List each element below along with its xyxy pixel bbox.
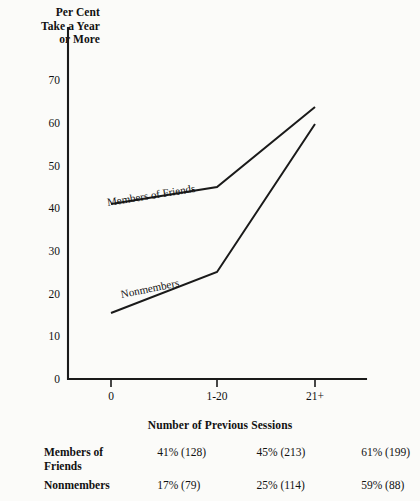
table-cell: 45% (213) — [254, 446, 351, 473]
table-row-label: Members of Friends — [0, 446, 151, 473]
x-tick-label-1-20: 1-20 — [195, 390, 239, 402]
x-axis-title: Number of Previous Sessions — [100, 419, 340, 433]
table-cell: 41% (128) — [151, 446, 254, 473]
table-cell: 25% (114) — [254, 479, 351, 493]
data-table: Members of Friends 41% (128) 45% (213) 6… — [0, 446, 420, 493]
table-cell: 59% (88) — [351, 479, 420, 493]
table-row-label: Nonmembers — [0, 479, 151, 493]
table-cell: 61% (199) — [351, 446, 420, 473]
table-row: Members of Friends 41% (128) 45% (213) 6… — [0, 446, 420, 473]
x-tick-label-21plus: 21+ — [293, 390, 337, 402]
table-row: Nonmembers 17% (79) 25% (114) 59% (88) — [0, 479, 420, 493]
table-cell: 17% (79) — [151, 479, 254, 493]
x-tick-label-0: 0 — [89, 390, 133, 402]
figure-container: Per Cent Take a Year or More 70 60 50 40… — [0, 0, 420, 501]
